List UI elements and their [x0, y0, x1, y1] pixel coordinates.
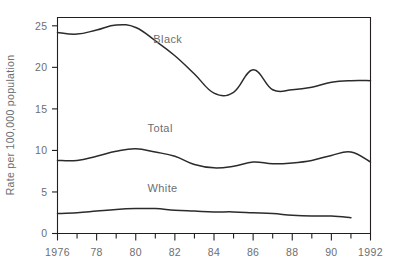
x-tick-label-1976: 1976: [45, 246, 70, 258]
y-axis-ticks: [52, 26, 58, 234]
x-tick-label-1992: 1992: [358, 246, 383, 258]
line-chart: 0510152025 1976788082848688901992 BlackT…: [0, 0, 401, 268]
x-tick-label-1990: 90: [325, 246, 337, 258]
series-line-black: [58, 25, 371, 96]
x-axis-tick-labels: 1976788082848688901992: [45, 246, 383, 258]
x-tick-label-1984: 84: [208, 246, 220, 258]
y-tick-label-15: 15: [35, 103, 47, 115]
y-tick-label-0: 0: [41, 227, 47, 239]
series-line-total: [58, 149, 371, 168]
y-tick-label-25: 25: [35, 20, 47, 32]
data-series-group: [58, 25, 371, 218]
series-label-black: Black: [153, 33, 182, 45]
axis-frame: [58, 18, 371, 234]
y-tick-label-5: 5: [41, 186, 47, 198]
y-tick-label-20: 20: [35, 61, 47, 73]
x-tick-label-1982: 82: [169, 246, 181, 258]
plot-frame: [58, 18, 371, 234]
y-axis-title: Rate per 100,000 population: [4, 55, 16, 196]
x-tick-label-1986: 86: [247, 246, 259, 258]
x-axis-ticks: [58, 234, 371, 241]
series-line-white: [58, 208, 351, 217]
x-tick-label-1988: 88: [286, 246, 298, 258]
series-label-total: Total: [147, 122, 172, 134]
x-tick-label-1980: 80: [130, 246, 142, 258]
y-axis-tick-labels: 0510152025: [35, 20, 47, 240]
series-label-white: White: [147, 182, 177, 194]
y-tick-label-10: 10: [35, 144, 47, 156]
chart-figure: 0510152025 1976788082848688901992 BlackT…: [0, 0, 401, 268]
x-tick-label-1978: 78: [90, 246, 102, 258]
